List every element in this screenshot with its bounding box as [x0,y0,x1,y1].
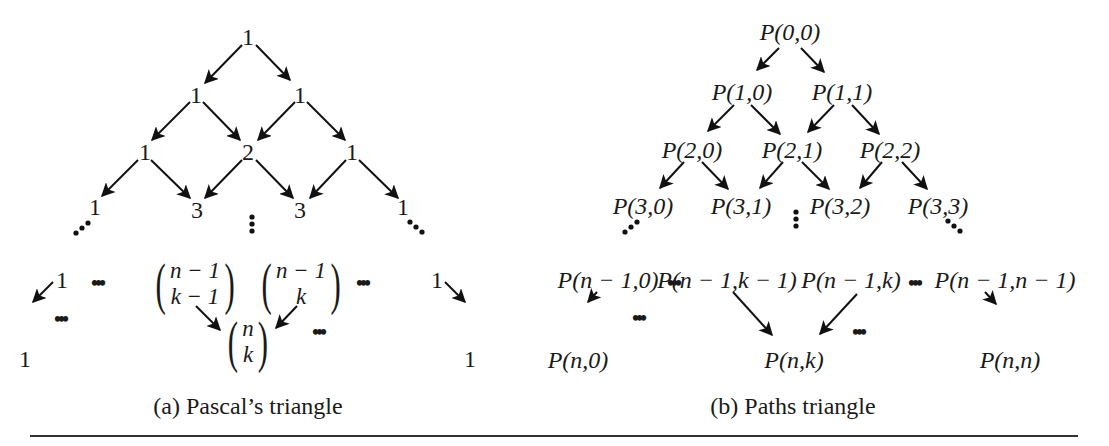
paths-continuation-dots [0,0,1109,446]
path-rn1-ck: P(n − 1,k) [801,268,901,292]
path-rn-c0: P(n,0) [548,348,609,372]
path-ellipsis-2: ••• [908,272,920,295]
path-ellipsis-3: ••• [632,307,644,330]
path-rn1-c0: P(n − 1,0) [558,268,659,292]
path-rn-cn: P(n,n) [980,348,1041,372]
bottom-rule [30,435,1078,437]
caption-paths: (b) Paths triangle [710,393,875,420]
path-rn-ck: P(n,k) [764,348,823,372]
path-rn1-ck1: P(n − 1,k − 1) [657,268,797,292]
path-rn1-cn1: P(n − 1,n − 1) [934,268,1075,292]
figure-canvas: 1 1 1 1 2 1 1 3 3 1 1 ••• ( n − 1k − 1 )… [0,0,1109,446]
path-ellipsis-4: ••• [852,321,864,344]
